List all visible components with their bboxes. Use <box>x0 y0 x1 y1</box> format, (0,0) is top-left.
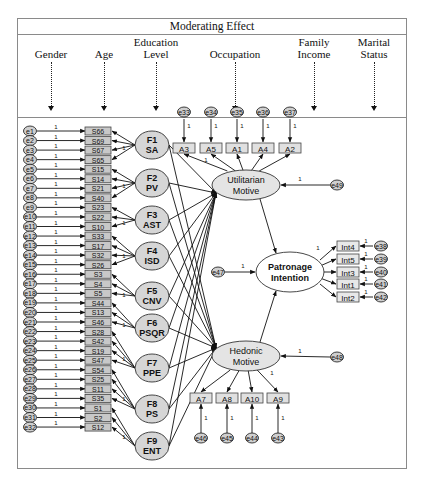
path-weight-label: 1 <box>54 411 58 417</box>
path-weight-label: 1 <box>54 372 58 378</box>
factor-to-hedonic-arrow <box>169 328 216 348</box>
error-term-label: e41 <box>375 281 387 288</box>
indicator-label: S14 <box>92 176 105 183</box>
path-weight-label: 1 <box>54 334 58 340</box>
loading-arrow <box>112 408 135 446</box>
error-term-label: e43 <box>272 435 284 442</box>
path-weight-label: 1 <box>54 258 58 264</box>
indicator-label: S23 <box>92 204 105 211</box>
error-term-label: e20 <box>24 309 36 316</box>
utilitarian-indicator-label: A5 <box>206 145 216 154</box>
error-term-label: e27 <box>24 376 36 383</box>
patronage-intention-label-line1: Patronage <box>268 262 312 272</box>
error-term-label: e47 <box>212 269 224 276</box>
error-term-label: e4 <box>26 156 34 163</box>
hedonic-loading-arrow <box>248 370 252 392</box>
factor-id: F3 <box>147 210 158 220</box>
indicator-label: S25 <box>92 376 105 383</box>
path-weight-label: 1 <box>316 245 320 251</box>
path-weight-label: 1 <box>54 363 58 369</box>
error-term-label: e10 <box>24 213 36 220</box>
error-term-label: e9 <box>26 204 34 211</box>
path-weight-label: 1 <box>54 143 58 149</box>
indicator-label: S11 <box>92 386 104 393</box>
patronage-intention-label-line2: Intention <box>271 273 309 283</box>
loading-arrow <box>112 370 135 409</box>
factor-to-hedonic-arrow <box>169 348 216 368</box>
indicator-label: S21 <box>92 185 105 192</box>
path-weight-label: 1 <box>54 200 58 206</box>
factor-id: F4 <box>147 246 158 256</box>
error-term-label: e38 <box>375 243 387 250</box>
factor-to-utilitarian-arrow <box>169 193 216 409</box>
path-weight-label: 1 <box>54 401 58 407</box>
path-weight-label: 1 <box>54 210 58 216</box>
indicator-label: S10 <box>92 224 105 231</box>
sem-path-diagram: 1e1S661e2S691e3S671e4S651e5S151e6S141e7S… <box>0 0 421 485</box>
indicator-label: S44 <box>92 300 105 307</box>
error-term-label: e3 <box>26 147 34 154</box>
utilitarian-motive-label-line2: Motive <box>233 186 260 196</box>
path-weight-label: 1 <box>54 239 58 245</box>
error-term-label: e7 <box>26 185 34 192</box>
hedonic-indicator-label: A7 <box>196 395 206 404</box>
utilitarian-to-patronage-arrow <box>260 199 276 253</box>
indicator-label: S19 <box>92 348 105 355</box>
error-term-label: e2 <box>26 137 34 144</box>
utilitarian-loading-arrow <box>251 154 263 171</box>
hedonic-indicator-label: A10 <box>245 395 260 404</box>
loading-arrow <box>112 379 135 409</box>
patronage-intention <box>256 252 324 292</box>
indicator-label: S65 <box>92 157 105 164</box>
factor-id: F9 <box>147 436 158 446</box>
patronage-indicator-label: Int5 <box>341 256 355 265</box>
error-term-label: e11 <box>24 223 35 230</box>
path-weight-label: 1 <box>54 344 58 350</box>
path-weight-label: 1 <box>54 286 58 292</box>
factor-name: ENT <box>143 446 162 456</box>
path-weight-label: 1 <box>122 322 126 328</box>
factor-name: AST <box>143 220 162 230</box>
factor-name: PPE <box>143 368 161 378</box>
factor-id: F5 <box>147 286 158 296</box>
path-weight-label: 1 <box>122 145 126 151</box>
factor-id: F8 <box>147 399 158 409</box>
path-weight-label: 1 <box>230 415 234 421</box>
path-weight-label: 1 <box>255 415 259 421</box>
error-term-label: e25 <box>24 357 36 364</box>
path-weight-label: 1 <box>54 296 58 302</box>
utilitarian-loading-arrow <box>259 154 290 171</box>
patronage-loading-arrow <box>320 246 336 260</box>
factor-to-hedonic-arrow <box>169 220 216 348</box>
indicator-label: S40 <box>92 195 105 202</box>
error-term-label: e48 <box>331 354 343 361</box>
patronage-indicator-label: Int4 <box>341 243 355 252</box>
hedonic-motive-label-line1: Hedonic <box>229 346 263 356</box>
indicator-label: S69 <box>92 138 105 145</box>
path-weight-label: 1 <box>54 229 58 235</box>
utilitarian-loading-arrow <box>211 154 236 171</box>
path-weight-label: 1 <box>364 276 368 282</box>
path-weight-label: 1 <box>364 251 368 257</box>
error-term-label: e40 <box>375 269 387 276</box>
path-weight-label: 1 <box>298 176 302 182</box>
error-term-label: e39 <box>375 256 387 263</box>
indicator-label: S1 <box>94 405 103 412</box>
path-weight-label: 1 <box>54 248 58 254</box>
path-weight-label: 1 <box>54 353 58 359</box>
patronage-indicator-label: Int1 <box>341 281 355 290</box>
path-weight-label: 1 <box>54 124 58 130</box>
path-weight-label: 1 <box>204 157 208 163</box>
error-term-label: e19 <box>24 299 36 306</box>
indicator-label: S26 <box>92 262 105 269</box>
path-weight-label: 1 <box>54 391 58 397</box>
error-term-label: e33 <box>178 109 190 116</box>
path-weight-label: 1 <box>204 415 208 421</box>
utilitarian-indicator-label: A4 <box>258 145 268 154</box>
path-weight-label: 1 <box>54 305 58 311</box>
error-term-label: e42 <box>375 294 387 301</box>
path-weight-label: 1 <box>54 382 58 388</box>
error-term-label: e30 <box>24 404 36 411</box>
error-term-label: e18 <box>24 290 36 297</box>
path-weight-label: 1 <box>54 315 58 321</box>
